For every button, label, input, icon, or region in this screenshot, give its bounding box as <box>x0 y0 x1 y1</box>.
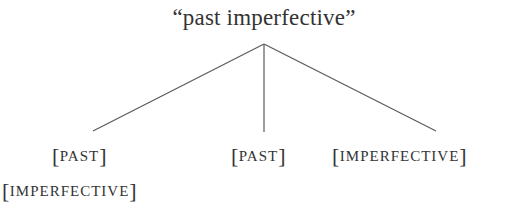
right-leaf-imperfective-feature: [IMPERFECTIVE] <box>332 145 467 167</box>
edge-left <box>93 44 264 131</box>
open-bracket: [ <box>2 178 10 203</box>
open-bracket: [ <box>52 143 60 168</box>
edge-right <box>264 44 436 131</box>
left-leaf-past-feature: [PAST] <box>52 145 107 167</box>
open-bracket: [ <box>231 143 239 168</box>
close-bracket: ] <box>278 143 286 168</box>
left-leaf-imperfective-feature: [IMPERFECTIVE] <box>2 180 137 202</box>
root-node-label: “past imperfective” <box>0 6 517 29</box>
close-bracket: ] <box>459 143 467 168</box>
feature-text: PAST <box>60 148 99 164</box>
close-bracket: ] <box>129 178 137 203</box>
close-bracket: ] <box>99 143 107 168</box>
open-bracket: [ <box>332 143 340 168</box>
middle-leaf-past-feature: [PAST] <box>231 145 286 167</box>
feature-text: IMPERFECTIVE <box>340 148 460 164</box>
feature-text: IMPERFECTIVE <box>10 183 130 199</box>
feature-text: PAST <box>239 148 278 164</box>
